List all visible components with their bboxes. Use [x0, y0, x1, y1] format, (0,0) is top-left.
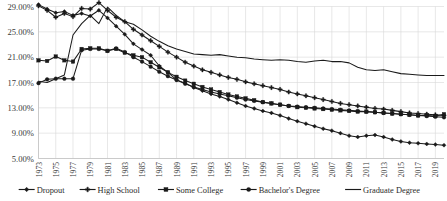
legend-item-label: Bachelor's Degree	[259, 186, 321, 195]
data-point-marker-diamond	[80, 11, 84, 15]
data-point-marker-circle	[244, 98, 248, 102]
data-point-marker-diamond	[295, 119, 299, 123]
data-point-marker-circle	[226, 94, 230, 98]
data-point-marker-circle	[218, 92, 222, 96]
data-point-marker-circle	[408, 113, 412, 117]
x-axis-tick-label: 1995	[224, 162, 233, 177]
data-point-marker-circle	[88, 47, 92, 51]
data-point-marker-circle	[356, 109, 360, 113]
x-axis-tick-label: 2005	[311, 162, 320, 177]
x-axis-tick-label: 1975	[52, 162, 61, 177]
series-dropout	[37, 3, 447, 148]
data-point-marker-plus	[347, 103, 351, 107]
data-point-marker-plus	[312, 96, 316, 100]
data-point-marker-plus	[330, 99, 334, 103]
data-point-marker-diamond	[399, 139, 403, 143]
data-point-marker-square	[149, 60, 153, 64]
data-point-marker-square	[166, 71, 170, 75]
data-point-marker-diamond	[407, 141, 411, 145]
data-point-marker-diamond	[356, 135, 360, 139]
data-point-marker-circle	[434, 115, 438, 119]
x-axis-tick-label: 1993	[207, 162, 216, 177]
data-point-marker-diamond	[425, 142, 429, 146]
data-point-marker-circle	[71, 77, 75, 81]
y-axis-tick-label: 21.00%	[8, 52, 35, 62]
data-point-marker-square	[140, 55, 144, 59]
legend-item-some-college[interactable]: Some College	[158, 186, 224, 195]
data-point-marker-circle	[123, 50, 127, 54]
x-axis-tick-label: 1985	[138, 162, 147, 177]
data-point-marker-diamond	[235, 101, 239, 105]
x-axis-tick-label: 2019	[431, 162, 440, 177]
x-axis-tick-label: 1997	[242, 162, 251, 177]
line-chart: 29.00%25.00%21.00%17.00%13.00%9.00%5.00%…	[0, 0, 447, 201]
data-point-marker-plus	[295, 92, 299, 96]
data-point-marker-circle	[192, 85, 196, 89]
data-point-marker-plus	[243, 80, 247, 84]
data-point-marker-square	[158, 66, 162, 70]
x-axis-tick-label: 1999	[259, 162, 268, 177]
data-point-marker-circle	[442, 115, 446, 119]
data-point-marker-diamond	[244, 104, 248, 108]
data-point-marker-plus	[261, 84, 265, 88]
x-axis-tick-label: 1983	[121, 162, 130, 177]
data-point-marker-diamond	[338, 131, 342, 135]
data-point-marker-circle	[247, 187, 251, 191]
data-point-marker-circle	[149, 65, 153, 69]
data-point-marker-plus	[85, 187, 90, 192]
data-point-marker-plus	[287, 90, 291, 94]
data-point-marker-diamond	[287, 117, 291, 121]
data-point-marker-circle	[287, 104, 291, 108]
series-high-school	[36, 1, 446, 118]
legend-item-label: Some College	[176, 186, 224, 195]
data-point-marker-diamond	[442, 143, 446, 147]
data-point-marker-diamond	[54, 11, 58, 15]
legend-item-high-school[interactable]: High School	[80, 186, 141, 195]
data-point-marker-diamond	[278, 113, 282, 117]
y-axis-tick-label: 25.00%	[8, 27, 35, 37]
data-point-marker-circle	[132, 55, 136, 59]
data-point-marker-plus	[226, 75, 230, 79]
data-point-marker-circle	[63, 77, 67, 81]
x-axis-tick-label: 1989	[173, 162, 182, 177]
legend-item-dropout[interactable]: Dropout	[19, 186, 66, 195]
series-line	[39, 5, 445, 146]
data-point-marker-circle	[252, 99, 256, 103]
data-point-marker-plus	[364, 105, 368, 109]
x-axis-tick-label: 1987	[155, 162, 164, 177]
data-point-marker-diamond	[226, 98, 230, 102]
data-point-marker-circle	[157, 70, 161, 74]
data-point-marker-square	[37, 59, 41, 63]
data-point-marker-diamond	[330, 129, 334, 133]
data-point-marker-plus	[209, 70, 213, 74]
data-point-marker-diamond	[252, 106, 256, 110]
data-point-marker-diamond	[382, 135, 386, 139]
data-point-marker-plus	[338, 101, 342, 105]
x-axis-tick-label: 2011	[362, 162, 371, 177]
data-point-marker-circle	[201, 88, 205, 92]
x-axis-tick-label: 2015	[397, 162, 406, 177]
data-point-marker-plus	[304, 94, 308, 98]
data-point-marker-circle	[321, 107, 325, 111]
x-axis-tick-label: 1991	[190, 162, 199, 177]
legend-item-bachelor-s-degree[interactable]: Bachelor's Degree	[241, 186, 321, 195]
data-point-marker-plus	[269, 85, 273, 89]
data-point-marker-square	[54, 55, 58, 59]
legend-item-graduate-degree[interactable]: Graduate Degree	[345, 186, 420, 195]
data-point-marker-circle	[209, 90, 213, 94]
data-point-marker-diamond	[347, 134, 351, 138]
data-point-marker-circle	[80, 48, 84, 52]
y-axis-tick-labels: 29.00%25.00%21.00%17.00%13.00%9.00%5.00%	[8, 2, 35, 164]
series-line	[39, 48, 445, 116]
data-point-marker-square	[45, 59, 49, 63]
data-point-marker-diamond	[364, 134, 368, 138]
data-point-marker-plus	[373, 106, 377, 110]
data-point-marker-circle	[373, 110, 377, 114]
data-point-marker-circle	[278, 103, 282, 107]
data-point-marker-circle	[97, 47, 101, 51]
data-point-marker-circle	[365, 110, 369, 114]
data-point-marker-plus	[356, 104, 360, 108]
x-axis-tick-labels: 1973197519771979198119831985198719891991…	[35, 162, 441, 177]
data-point-marker-circle	[425, 114, 429, 118]
data-point-marker-circle	[261, 100, 265, 104]
